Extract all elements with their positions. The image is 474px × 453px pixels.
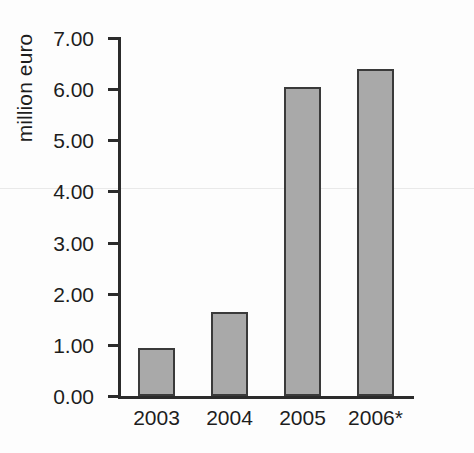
bar-2003: [138, 348, 175, 396]
plot-area: 0.00 1.00 2.00 3.00 4.00 5.00 6.00 7.00 …: [0, 0, 474, 453]
y-tick-mark: [108, 293, 120, 296]
x-axis-line: [118, 396, 414, 399]
y-tick-label: 7.00: [0, 28, 94, 49]
x-tick-label-2006: 2006*: [321, 406, 431, 430]
y-tick-mark: [108, 88, 120, 91]
y-tick-mark: [108, 344, 120, 347]
y-tick-label: 0.00: [0, 386, 94, 407]
y-tick-label: 6.00: [0, 79, 94, 100]
y-tick-label: 1.00: [0, 335, 94, 356]
bar-2004: [211, 312, 248, 396]
bar-chart-figure: million euro 0.00 1.00 2.00 3.00 4.00 5.…: [0, 0, 474, 453]
y-tick-label: 4.00: [0, 181, 94, 202]
y-tick-label: 5.00: [0, 130, 94, 151]
y-tick-mark: [108, 242, 120, 245]
bar-2006: [357, 69, 394, 396]
bar-2005: [284, 87, 321, 396]
y-tick-mark: [108, 395, 120, 398]
y-tick-mark: [108, 139, 120, 142]
y-tick-mark: [108, 190, 120, 193]
y-tick-label: 2.00: [0, 284, 94, 305]
y-tick-label: 3.00: [0, 233, 94, 254]
y-tick-mark: [108, 37, 120, 40]
